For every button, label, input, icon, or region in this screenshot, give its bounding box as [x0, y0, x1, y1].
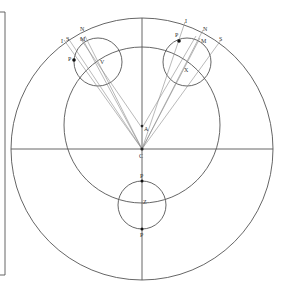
point-bottom-P-top	[141, 180, 144, 183]
label-left-V: V	[100, 59, 105, 65]
point-C	[140, 147, 143, 150]
label-left-M: M	[80, 36, 86, 42]
diagram-canvas: C A Z P P N I S M P V I N S M P X	[0, 0, 286, 300]
label-left-S: S	[66, 36, 69, 42]
right-epicycle	[163, 38, 211, 86]
point-bottom-P-bottom	[141, 228, 144, 231]
label-right-I: I	[185, 18, 187, 24]
left-box	[0, 12, 5, 275]
label-P-bottom-bottom: P	[140, 232, 144, 238]
point-A	[141, 125, 143, 127]
label-right-M: M	[201, 38, 207, 44]
label-P-bottom-top: P	[140, 173, 144, 179]
label-Z: Z	[143, 199, 147, 205]
label-C: C	[139, 153, 143, 159]
label-left-N: N	[80, 26, 85, 32]
point-left-P	[72, 58, 76, 62]
label-A: A	[144, 126, 149, 132]
label-left-P: P	[68, 56, 72, 62]
point-right-P	[177, 39, 181, 43]
label-left-I: I	[61, 38, 63, 44]
label-right-S: S	[219, 36, 222, 42]
label-right-N: N	[203, 26, 208, 32]
label-right-X: X	[184, 67, 189, 73]
label-right-P: P	[175, 32, 179, 38]
